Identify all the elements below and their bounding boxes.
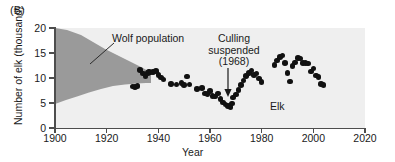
elk-label: Elk bbox=[270, 101, 285, 113]
y-tick-mark bbox=[49, 27, 55, 29]
culling-line-3: (1968) bbox=[219, 55, 249, 67]
y-tick-label: 0 bbox=[6, 123, 46, 134]
x-tick-label: 1960 bbox=[184, 133, 236, 144]
x-tick-label: 1900 bbox=[29, 133, 81, 144]
x-axis-title: Year bbox=[182, 146, 203, 158]
culling-line-1: Culling bbox=[218, 32, 250, 44]
chart-figure: (B) Number of elk (thousand) Year 051015… bbox=[0, 0, 395, 162]
y-tick-mark bbox=[49, 102, 55, 104]
x-tick-label: 1980 bbox=[236, 133, 288, 144]
culling-suspended-label: Culling suspended (1968) bbox=[200, 33, 268, 68]
x-tick-label: 1920 bbox=[81, 133, 133, 144]
y-tick-label: 5 bbox=[6, 98, 46, 109]
culling-line-2: suspended bbox=[208, 44, 259, 56]
y-tick-label: 10 bbox=[6, 73, 46, 84]
y-tick-label: 20 bbox=[6, 23, 46, 34]
x-tick-label: 2000 bbox=[287, 133, 339, 144]
y-tick-mark bbox=[49, 52, 55, 54]
x-tick-label: 2020 bbox=[339, 133, 391, 144]
wolf-population-label: Wolf population bbox=[112, 33, 184, 45]
y-tick-mark bbox=[49, 77, 55, 79]
x-tick-label: 1940 bbox=[132, 133, 184, 144]
y-tick-label: 15 bbox=[6, 48, 46, 59]
